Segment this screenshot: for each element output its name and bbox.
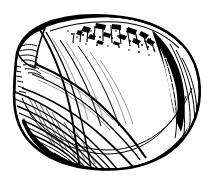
illustration-canvas: clam shell oval bivalve valve, umbo at u… [0, 0, 209, 179]
bivalve-shell-illustration: clam shell oval bivalve valve, umbo at u… [0, 0, 209, 179]
